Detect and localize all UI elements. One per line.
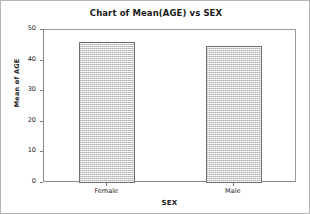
y-tick-mark [40, 182, 44, 183]
x-tick-label: Male [193, 187, 273, 195]
y-tick-label: 40 [28, 55, 36, 63]
y-tick-label: 20 [28, 116, 36, 124]
y-tick-label: 10 [28, 146, 36, 154]
bar [206, 46, 262, 183]
x-tick-mark [106, 182, 107, 186]
bar [79, 42, 135, 183]
x-tick-mark [233, 182, 234, 186]
bar-chart-figure: Chart of Mean(AGE) vs SEX Mean of AGE 01… [0, 0, 310, 214]
x-axis-title: SEX [43, 199, 296, 207]
plot-area [43, 29, 296, 182]
chart-title: Chart of Mean(AGE) vs SEX [1, 8, 310, 18]
y-tick-label: 30 [28, 85, 36, 93]
x-tick-label: Female [66, 187, 146, 195]
y-axis-title: Mean of AGE [13, 23, 21, 143]
y-tick-label: 50 [28, 24, 36, 32]
y-tick-label: 0 [32, 177, 36, 185]
